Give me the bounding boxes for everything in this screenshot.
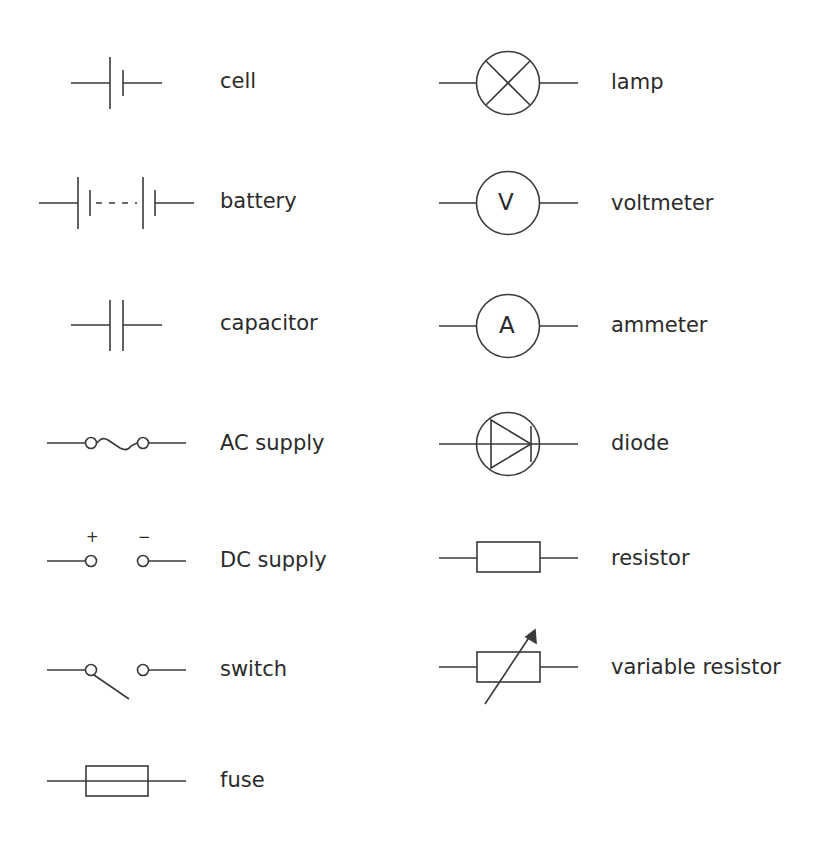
variable-resistor-label: variable resistor <box>611 657 781 678</box>
ac-supply-symbol-icon <box>47 438 186 450</box>
switch-symbol-icon <box>47 665 186 700</box>
diode-symbol-icon <box>439 413 578 476</box>
ac-supply-label: AC supply <box>220 433 325 454</box>
variable-resistor-symbol-icon <box>439 630 578 704</box>
capacitor-symbol-icon <box>71 300 162 351</box>
dc-supply-symbol-icon <box>47 556 186 567</box>
fuse-symbol-icon <box>47 766 186 796</box>
cell-symbol-icon <box>71 57 162 109</box>
fuse-label: fuse <box>220 770 265 791</box>
symbols-canvas <box>0 0 818 843</box>
dc-supply-label: DC supply <box>220 550 327 571</box>
battery-symbol-icon <box>39 177 194 229</box>
lamp-label: lamp <box>611 72 664 93</box>
resistor-label: resistor <box>611 548 690 569</box>
ammeter-glyph: A <box>499 314 515 337</box>
resistor-symbol-icon <box>439 542 578 572</box>
dc-plus-sign: + <box>86 530 99 545</box>
lamp-symbol-icon <box>439 52 578 115</box>
battery-label: battery <box>220 191 297 212</box>
ammeter-label: ammeter <box>611 315 708 336</box>
voltmeter-label: voltmeter <box>611 193 714 214</box>
voltmeter-glyph: V <box>498 191 514 214</box>
dc-minus-sign: − <box>138 530 151 545</box>
diode-label: diode <box>611 433 669 454</box>
switch-label: switch <box>220 659 287 680</box>
capacitor-label: capacitor <box>220 313 318 334</box>
cell-label: cell <box>220 71 256 92</box>
